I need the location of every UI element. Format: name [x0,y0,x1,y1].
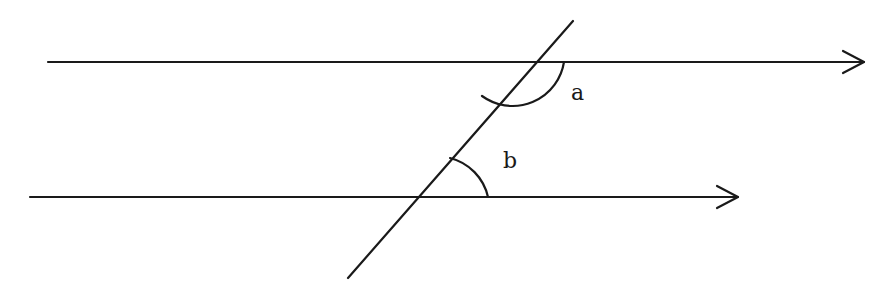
parallel-lines-diagram: a b [0,0,886,298]
angle-a-arc [482,62,564,106]
angle-a-label: a [571,80,584,105]
angle-b-arc [450,158,488,197]
angle-b-label: b [503,148,517,173]
transversal-line [348,21,573,278]
